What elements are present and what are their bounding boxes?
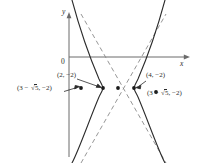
left-focus-radical-icon: √5 xyxy=(30,84,38,92)
axes-group xyxy=(67,12,190,157)
radical-bar-icon xyxy=(164,89,167,90)
left-focus-leader-arrowhead xyxy=(75,85,80,89)
radical-bar-icon xyxy=(34,84,37,85)
center-point xyxy=(116,86,120,90)
right-vertex-leader-arrowhead xyxy=(136,85,141,89)
hyperbola-right-branch-icon xyxy=(134,0,165,163)
hyperbola-left-branch-icon xyxy=(72,0,103,163)
y-axis-label: y xyxy=(62,8,65,16)
right-vertex-label: (4, −2) xyxy=(146,72,165,79)
y-axis-arrowhead xyxy=(67,12,72,18)
hyperbola-group xyxy=(72,0,165,163)
left-vertex-label: (2, −2) xyxy=(57,72,76,79)
right-focus-label: (3 + √5, −2) xyxy=(147,90,182,97)
x-axis-arrowhead xyxy=(184,55,190,60)
left-focus-label-suffix: , −2) xyxy=(38,84,51,92)
left-focus-label: (3 − √5, −2) xyxy=(17,85,52,92)
plot-canvas xyxy=(0,0,202,163)
right-focus-radical-icon: √5 xyxy=(160,89,168,97)
left-vertex-leader-arrowhead xyxy=(96,84,101,88)
left-vertex-leader xyxy=(77,79,98,86)
hyperbola-figure: y x 0 (2, −2) (3 − √5, −2) (4, −2) (3 + … xyxy=(0,0,202,163)
left-focus-label-prefix: (3 − xyxy=(17,84,30,92)
x-axis-label: x xyxy=(180,60,183,68)
right-focus-label-prefix: (3 + xyxy=(147,89,160,97)
origin-label: 0 xyxy=(61,58,65,66)
right-focus-label-suffix: , −2) xyxy=(168,89,181,97)
right-vertex-point xyxy=(132,86,136,90)
